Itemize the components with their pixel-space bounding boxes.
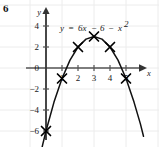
x-axis-label: x — [146, 68, 151, 78]
equation-equals: = — [68, 23, 74, 33]
equation-minus-1: − — [91, 23, 97, 33]
parabola-plot: 1 2 3 4 5 4 2 0 −2 −4 −6 x y — [0, 0, 159, 147]
y-tick-label-neg6: −6 — [29, 126, 39, 136]
y-axis-label: y — [36, 7, 41, 17]
y-tick-label-4: 4 — [35, 21, 40, 31]
y-tick-label-neg2: −2 — [29, 84, 39, 94]
y-tick-label-neg4: −4 — [29, 105, 39, 115]
equation-exponent: 2 — [124, 19, 129, 29]
x-tick-label-3: 3 — [92, 73, 97, 83]
equation-term-3: x — [117, 23, 122, 33]
plot-point-markers — [42, 32, 131, 136]
y-tick-label-2: 2 — [35, 42, 40, 52]
x-axis — [26, 64, 147, 71]
x-tick-label-2: 2 — [76, 73, 81, 83]
equation-term-1: 6x — [78, 23, 87, 33]
equation-minus-2: − — [108, 23, 114, 33]
equation-lhs: y — [59, 23, 64, 33]
axis-tick-marks — [43, 26, 126, 131]
x-tick-label-4: 4 — [108, 73, 113, 83]
equation-term-2: 6 — [100, 23, 105, 33]
y-axis-tick-labels: 4 2 0 −2 −4 −6 — [29, 21, 39, 136]
x-axis-arrowhead — [139, 64, 147, 71]
math-figure: 6 — [0, 0, 159, 147]
y-axis-arrowhead — [42, 7, 49, 14]
x-axis-tick-labels: 1 2 3 4 5 — [60, 73, 129, 83]
parabola-curve — [39, 37, 144, 148]
y-tick-label-0: 0 — [35, 63, 40, 73]
